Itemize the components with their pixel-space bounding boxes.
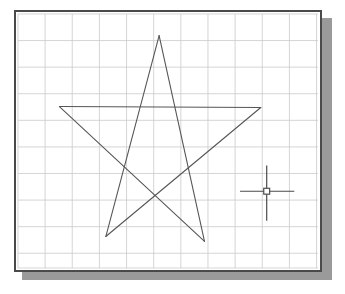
star-segment[interactable] xyxy=(159,36,204,242)
pentagram-star[interactable] xyxy=(59,36,260,242)
drawing-canvas[interactable] xyxy=(16,12,320,270)
star-segment[interactable] xyxy=(59,107,204,242)
drawing-grid xyxy=(18,14,318,268)
star-segment[interactable] xyxy=(106,36,159,237)
drawing-window[interactable] xyxy=(14,10,322,272)
crosshair-pickbox[interactable] xyxy=(264,188,270,194)
star-segment[interactable] xyxy=(59,107,260,108)
screenshot-root xyxy=(0,0,345,294)
